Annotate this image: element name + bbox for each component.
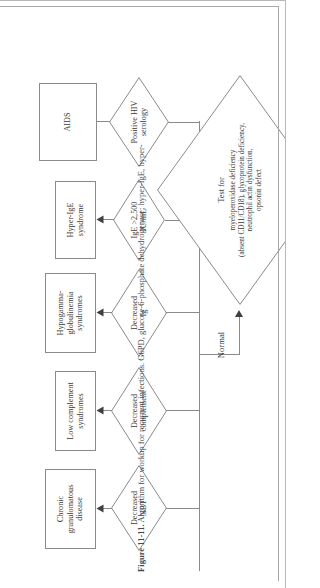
decision-test-for: Test for myeloperoxidase deficiency (abs… <box>157 75 286 305</box>
arrowhead-ige <box>97 216 104 224</box>
connector-complement-outcome <box>103 410 112 411</box>
branch-riser-nbt <box>165 508 200 509</box>
arrowhead-ig <box>97 309 104 317</box>
outcome-low-complement-syndromes: Low complement syndromes <box>55 371 96 451</box>
arrowhead-nbt <box>97 505 104 513</box>
figure-caption-text: Algorithm for workup for recurrent infec… <box>136 144 146 522</box>
connector-ig-outcome <box>103 312 112 313</box>
outcome-label: Hypogamma- globulinemia syndromes <box>56 290 84 335</box>
normal-connector <box>239 317 240 355</box>
figure-caption: Figure 11-11. Algorithm for workup for r… <box>136 12 158 572</box>
figure-number: Figure 11-11. <box>136 524 146 572</box>
test-node-title: Test for <box>217 177 226 203</box>
branch-riser-complement <box>165 410 200 411</box>
test-node-body: myeloperoxidase deficiency (absent CD11/… <box>229 123 264 257</box>
branch-riser-ig <box>165 312 200 313</box>
outcome-label: Low complement syndromes <box>66 382 85 440</box>
outcome-aids: AIDS <box>39 83 97 161</box>
outcome-hypogammaglobulinemia: Hypogamma- globulinemia syndromes <box>45 273 96 353</box>
connector-nbt-outcome <box>103 508 112 509</box>
outcome-label: Hyper-IgE syndrome <box>66 203 85 238</box>
edge-label-normal: Normal <box>217 315 226 375</box>
outcome-label: Chronic granulomatous disease <box>56 485 84 534</box>
outcome-chronic-granulomatous-disease: Chronic granulomatous disease <box>45 469 96 549</box>
arrowhead-normal <box>235 310 243 317</box>
connector-hiv-outcome <box>97 121 110 122</box>
outcome-label: AIDS <box>63 112 72 131</box>
outcome-hyper-ige-syndrome: Hyper-IgE syndrome <box>55 181 96 259</box>
connector-ige-outcome <box>103 219 114 220</box>
arrowhead-complement <box>97 407 104 415</box>
incoming-line <box>199 529 200 571</box>
